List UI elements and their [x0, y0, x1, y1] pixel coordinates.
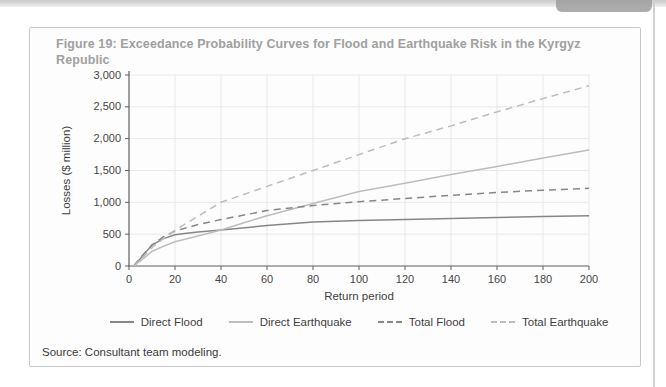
- series-line-direct-earthquake: [134, 150, 589, 266]
- legend-label: Direct Earthquake: [260, 316, 352, 328]
- y-tick-label: 3,000: [93, 69, 121, 81]
- chart-area: 05001,0001,5002,0002,5003,00002040608010…: [30, 66, 642, 318]
- legend-item-total-earthquake: Total Earthquake: [491, 316, 608, 328]
- scan-smudge-artifact: [556, 0, 652, 12]
- total-earthquake-line-swatch: [491, 321, 515, 323]
- x-tick-label: 60: [261, 273, 273, 285]
- series-line-total-flood: [134, 188, 589, 266]
- x-tick-label: 160: [488, 273, 506, 285]
- legend-item-total-flood: Total Flood: [378, 316, 465, 328]
- y-tick-label: 2,500: [93, 100, 121, 112]
- y-tick-label: 500: [103, 228, 121, 240]
- legend-label: Direct Flood: [141, 316, 203, 328]
- y-tick-label: 0: [115, 260, 121, 272]
- legend-item-direct-earthquake: Direct Earthquake: [229, 316, 352, 328]
- y-tick-label: 1,500: [93, 164, 121, 176]
- x-tick-label: 80: [307, 273, 319, 285]
- legend-label: Total Flood: [409, 316, 465, 328]
- y-tick-label: 2,000: [93, 132, 121, 144]
- chart-canvas: 05001,0001,5002,0002,5003,00002040608010…: [30, 66, 642, 318]
- y-tick-label: 1,000: [93, 196, 121, 208]
- figure-title: Figure 19: Exceedance Probability Curves…: [56, 37, 631, 68]
- figure-container: Figure 19: Exceedance Probability Curves…: [29, 27, 641, 367]
- scan-page-edge-artifact: [653, 0, 655, 387]
- direct-flood-line-swatch: [110, 321, 134, 323]
- total-flood-line-swatch: [378, 321, 402, 323]
- x-tick-label: 180: [534, 273, 552, 285]
- x-tick-label: 40: [215, 273, 227, 285]
- legend-item-direct-flood: Direct Flood: [110, 316, 203, 328]
- legend-label: Total Earthquake: [522, 316, 608, 328]
- x-tick-label: 20: [169, 273, 181, 285]
- series-line-direct-flood: [134, 216, 589, 266]
- x-tick-label: 0: [126, 273, 132, 285]
- x-tick-label: 200: [580, 273, 598, 285]
- series-line-total-earthquake: [134, 86, 589, 266]
- x-tick-label: 140: [442, 273, 460, 285]
- chart-legend: Direct Flood Direct Earthquake Total Flo…: [30, 316, 642, 328]
- figure-source: Source: Consultant team modeling.: [42, 346, 222, 358]
- x-tick-label: 100: [350, 273, 368, 285]
- direct-earthquake-line-swatch: [229, 321, 253, 323]
- x-axis-title: Return period: [324, 290, 394, 302]
- x-tick-label: 120: [396, 273, 414, 285]
- y-axis-title: Losses ($ million): [60, 126, 72, 216]
